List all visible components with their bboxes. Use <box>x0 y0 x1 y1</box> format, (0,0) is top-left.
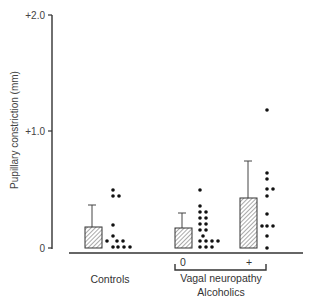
alcoholics-label: Alcoholics <box>197 286 244 298</box>
bar-vagal-zero <box>175 213 192 248</box>
dots-vagal-plus <box>260 108 275 250</box>
vagal-neuropathy-label: Vagal neuropathy <box>180 272 262 284</box>
y-tick-label-0: 0 <box>39 243 45 254</box>
y-tick-label-1: +1.0 <box>25 126 45 137</box>
bar-controls <box>85 205 102 248</box>
category-label-controls: Controls <box>90 273 129 285</box>
y-axis-title: Pupillary constriction (mm) <box>9 71 20 189</box>
category-label-vagal-plus: + <box>246 256 252 268</box>
chart: +2.0 +1.0 0 Pupillary constriction (mm) <box>0 0 309 305</box>
dots-vagal-zero <box>198 188 220 249</box>
bar-vagal-plus <box>240 161 257 248</box>
dots-controls <box>105 188 132 249</box>
category-label-vagal-zero: 0 <box>180 256 186 268</box>
y-tick-label-2: +2.0 <box>25 10 45 21</box>
alcoholics-bracket <box>175 264 266 270</box>
